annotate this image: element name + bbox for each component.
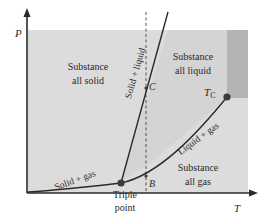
point-b-marker (144, 174, 147, 177)
point-c-label: C (149, 81, 156, 92)
liquid-region-label-line2: all liquid (175, 65, 211, 76)
y-axis-arrow-icon (24, 8, 31, 17)
triple-point-label-line1: Triple (113, 189, 138, 200)
triple-point-label-line2: point (115, 202, 136, 213)
point-c-marker (144, 86, 147, 89)
supercritical-region (227, 30, 248, 98)
y-axis-label: P (14, 27, 22, 39)
critical-point-label-sub: C (210, 91, 215, 100)
gas-region-label-line1: Substance (178, 162, 219, 173)
point-b-label: B (149, 178, 155, 189)
phase-diagram: P T Substance all solid Substance all li… (0, 0, 271, 219)
x-axis-label: T (234, 202, 241, 214)
critical-point-marker (223, 93, 230, 100)
gas-region-label-line2: all gas (185, 176, 211, 187)
liquid-region-label-line1: Substance (173, 51, 214, 62)
solid-region-label-line1: Substance (68, 61, 109, 72)
triple-point-marker (117, 179, 124, 186)
solid-region-label-line2: all solid (72, 75, 104, 86)
x-axis-arrow-icon (249, 190, 258, 197)
